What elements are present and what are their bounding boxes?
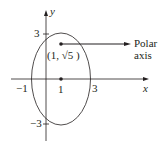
- polar-axis-label-line1: Polar: [134, 38, 157, 49]
- y-axis-arrow-icon: [44, 10, 48, 16]
- y-tick-label-neg3: −3: [30, 118, 42, 129]
- focus-point: [59, 42, 63, 46]
- x-axis-label: x: [143, 83, 148, 94]
- x-tick-label-neg1: −1: [16, 83, 28, 94]
- y-axis-label: y: [50, 6, 55, 17]
- polar-axis-arrow-icon: [124, 42, 131, 46]
- x-tick-label-1: 1: [58, 84, 64, 95]
- x-axis-arrow-icon: [143, 77, 149, 81]
- center-point: [59, 77, 63, 81]
- x-tick-label-3: 3: [92, 83, 98, 94]
- y-axis: [44, 10, 48, 141]
- y-tick-label-3: 3: [34, 28, 40, 39]
- polar-axis-label-line2: axis: [134, 50, 152, 61]
- polar-axis-ray: [61, 42, 131, 46]
- ellipse-diagram: [0, 0, 163, 147]
- focus-point-label: (1, √5 ): [47, 50, 80, 61]
